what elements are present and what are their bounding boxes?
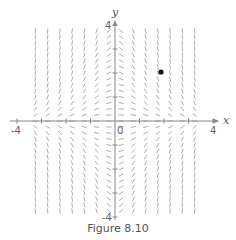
slope-segment [119,150,124,152]
slope-segment [132,77,135,81]
slope-segment [106,84,111,86]
slope-segment [35,83,36,88]
slope-segment [106,78,111,80]
slope-segment [182,155,183,160]
slope-segment [144,137,148,140]
slope-segment [194,89,195,94]
slope-segment [84,65,86,70]
slope-segment [157,77,159,82]
slope-segment [194,70,195,75]
slope-segment [181,143,183,148]
slope-segment [119,84,124,86]
slope-segment [59,46,60,51]
slope-segment [33,113,37,116]
slope-segment [47,28,48,33]
slope-segment [35,52,36,57]
slope-segment [107,54,111,57]
slope-segment [106,90,111,92]
slope-segment [145,167,147,172]
slope-segment [132,197,134,202]
slope-segment [71,83,73,88]
slope-segment [94,102,99,105]
slope-segment [181,107,184,111]
slope-segment [72,53,73,58]
slope-segment [170,71,171,76]
slope-segment [84,203,85,208]
slope-segment [59,143,61,148]
slope-segment [107,197,111,200]
slope-segment [33,125,37,128]
slope-segment [194,52,195,57]
slope-segment [96,47,98,52]
slope-segment [60,208,61,213]
slope-segment [47,161,48,166]
slope-segment [157,95,160,99]
slope-segment [84,41,85,46]
slope-segment [169,101,172,105]
slope-segment [157,202,158,207]
slope-segment [82,126,87,128]
slope-segment [131,102,136,105]
slope-segment [94,127,99,128]
slope-segment [59,71,60,76]
slope-segment [71,143,74,147]
slope-segment [194,166,195,171]
slope-segment [45,126,49,129]
slope-segment [193,113,197,116]
slope-segment [132,71,135,75]
slope-segment [193,107,196,111]
slope-segment [145,47,146,52]
slope-segment [84,173,86,178]
slope-segment [119,197,123,200]
slope-segment [145,77,147,82]
slope-segment [145,53,146,58]
slope-segment [83,149,86,153]
slope-segment [84,185,85,190]
slope-segment [107,35,111,38]
slope-segment [170,178,171,183]
slope-segment [34,131,37,135]
slope-segment [71,71,72,76]
slope-segment [132,155,135,159]
slope-segment [83,161,85,166]
slope-segment [95,77,98,81]
slope-segment [145,191,146,196]
slope-segment [155,126,160,128]
slope-segment [119,41,123,44]
slope-segment [94,138,99,141]
slope-segment [132,41,134,46]
slope-segment [132,167,135,171]
slope-segment [132,59,134,64]
slope-segment [194,58,195,63]
slope-segment [83,155,85,160]
slope-segment [144,101,148,104]
slope-segment [182,58,183,63]
slope-segment [182,166,183,171]
slope-segment [157,191,158,196]
slope-segment [82,132,86,135]
slope-segment [35,64,36,69]
slope-segment [82,101,86,104]
slope-segment [47,77,48,82]
slope-segment [155,114,160,116]
slope-segment [107,66,112,69]
slope-segment [59,178,60,183]
slope-segment [72,202,73,207]
slope-segment [194,178,195,183]
slope-segment [194,95,196,100]
slope-segment [170,167,171,172]
slope-segment [47,196,48,201]
slope-segment [157,143,160,147]
slope-segment [194,46,195,51]
slope-segment [35,149,36,154]
slope-segment [106,139,111,140]
slope-segment [157,83,159,88]
slope-segment [59,190,60,195]
slope-segment [181,137,183,142]
slope-segment [35,155,36,160]
slope-segment [106,162,111,164]
slope-segment [95,59,97,64]
slope-segment [182,202,183,207]
slope-segment [106,156,111,158]
slope-segment [59,155,60,160]
